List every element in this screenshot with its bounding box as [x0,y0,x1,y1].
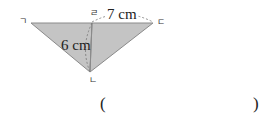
answer-close-paren: ) [253,95,259,112]
measurement-top: 7 cm [106,7,138,22]
vertex-label-left: ㄱ [19,17,27,26]
measurement-height: 6 cm [61,38,91,53]
vertex-label-right: ㄷ [157,18,165,27]
answer-blank[interactable] [112,95,248,113]
vertex-label-top: ㄹ [90,9,98,18]
vertex-label-bottom: ㄴ [89,76,97,85]
right-triangle [90,23,153,72]
answer-open-paren: ( [100,95,106,112]
